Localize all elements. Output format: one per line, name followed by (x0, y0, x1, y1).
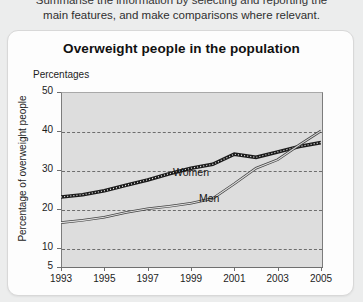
x-axis-line (61, 267, 323, 268)
chart-card: Overweight people in the population Perc… (7, 30, 354, 296)
x-tick-mark-1999 (191, 267, 192, 271)
series-label-women: Women (173, 166, 209, 178)
y-tick-label-30: 30 (27, 163, 53, 174)
line-chart: Percentages Percentage of overweight peo… (8, 31, 354, 296)
x-tick-mark-1995 (104, 267, 105, 271)
series-label-men: Men (199, 192, 219, 204)
y-tick-label-40: 40 (27, 124, 53, 135)
y-axis-title: Percentage of overweight people (17, 84, 28, 254)
x-tick-mark-2001 (234, 267, 235, 271)
task-instructions: Summarise the information by selecting a… (0, 0, 363, 23)
screenshot-root: Summarise the information by selecting a… (0, 0, 363, 302)
x-tick-label-2005: 2005 (301, 273, 341, 284)
x-tick-mark-1997 (148, 267, 149, 271)
y-tick-label-5: 5 (27, 260, 53, 271)
y-tick-label-10: 10 (27, 241, 53, 252)
y-tick-label-20: 20 (27, 202, 53, 213)
x-tick-label-2001: 2001 (214, 273, 254, 284)
x-tick-label-2003: 2003 (258, 273, 298, 284)
y-axis-unit-label: Percentages (33, 69, 89, 80)
x-tick-mark-2005 (321, 267, 322, 271)
x-tick-label-1993: 1993 (41, 273, 81, 284)
instruction-line-2: main features, and make comparisons wher… (0, 8, 363, 23)
instruction-line-1: Summarise the information by selecting a… (0, 0, 363, 8)
x-tick-label-1999: 1999 (171, 273, 211, 284)
x-tick-label-1997: 1997 (128, 273, 168, 284)
x-tick-mark-2003 (278, 267, 279, 271)
x-tick-mark-1993 (61, 267, 62, 271)
y-tick-label-50: 50 (27, 85, 53, 96)
x-tick-label-1995: 1995 (84, 273, 124, 284)
series-lines (61, 92, 321, 267)
